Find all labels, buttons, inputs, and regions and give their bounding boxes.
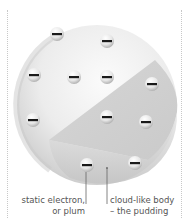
- electron: [145, 77, 159, 91]
- electron: [139, 115, 153, 129]
- pudding-label-line1: cloud-like body: [110, 195, 174, 206]
- electron: [80, 158, 94, 172]
- electron: [100, 70, 114, 84]
- electron: [27, 68, 41, 82]
- pudding-leader-dot: [106, 167, 108, 169]
- electron: [67, 70, 81, 84]
- atom-sphere-diagram: [0, 0, 185, 222]
- electron-label-line2: or plum: [22, 206, 85, 217]
- electron: [26, 113, 40, 127]
- electron-label-line1: static electron,: [22, 195, 85, 206]
- pudding-label: cloud-like body – the pudding: [110, 195, 174, 217]
- electron: [100, 110, 114, 124]
- electron: [100, 34, 114, 48]
- pudding-label-line2: – the pudding: [110, 206, 174, 217]
- electron-label: static electron, or plum: [22, 195, 85, 217]
- electron: [50, 27, 64, 41]
- electron: [128, 156, 142, 170]
